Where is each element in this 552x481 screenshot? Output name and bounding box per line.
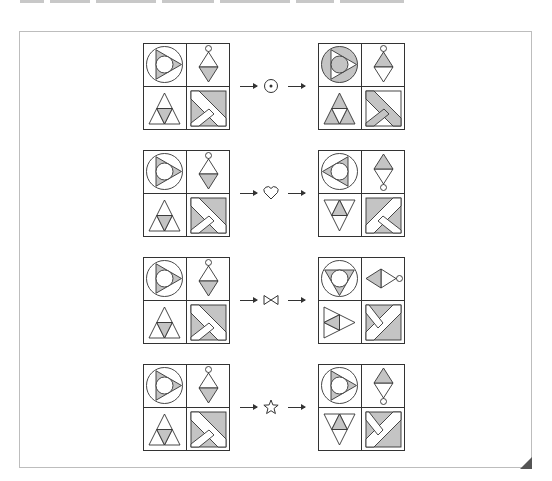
cut-off-header-text <box>20 0 420 4</box>
input-grid <box>143 364 230 451</box>
circled-dot-icon <box>259 74 283 98</box>
input-grid <box>143 257 230 344</box>
square-cell <box>366 91 401 126</box>
square-cell <box>191 412 226 447</box>
circle-triangle-cell <box>147 261 183 297</box>
arrow-right-icon <box>288 407 305 408</box>
arrow-right-icon <box>240 300 257 301</box>
input-grid <box>143 43 230 130</box>
square-cell <box>366 412 401 447</box>
square-cell <box>191 91 226 126</box>
puzzle-row <box>0 43 552 130</box>
output-grid <box>318 257 405 344</box>
circle-triangle-cell <box>147 47 183 83</box>
output-grid <box>318 43 405 130</box>
square-cell <box>366 305 401 340</box>
circle-triangle-cell <box>322 261 358 297</box>
output-grid <box>318 150 405 237</box>
square-cell <box>366 198 401 233</box>
input-grid <box>143 150 230 237</box>
puzzle-row <box>0 364 552 451</box>
heart-icon <box>259 181 283 205</box>
arrow-right-icon <box>240 86 257 87</box>
star-icon <box>259 395 283 419</box>
circle-triangle-cell <box>147 154 183 190</box>
circle-triangle-cell <box>322 154 358 190</box>
output-grid <box>318 364 405 451</box>
arrow-right-icon <box>288 300 305 301</box>
circle-triangle-cell <box>147 368 183 404</box>
circle-triangle-cell <box>322 368 358 404</box>
square-cell <box>191 198 226 233</box>
arrow-right-icon <box>288 193 305 194</box>
puzzle-row <box>0 257 552 344</box>
bowtie-icon <box>259 288 283 312</box>
arrow-right-icon <box>240 193 257 194</box>
puzzle-row <box>0 150 552 237</box>
circle-triangle-cell <box>322 47 358 83</box>
arrow-right-icon <box>288 86 305 87</box>
arrow-right-icon <box>240 407 257 408</box>
square-cell <box>191 305 226 340</box>
page-curl-corner-icon <box>520 457 532 469</box>
